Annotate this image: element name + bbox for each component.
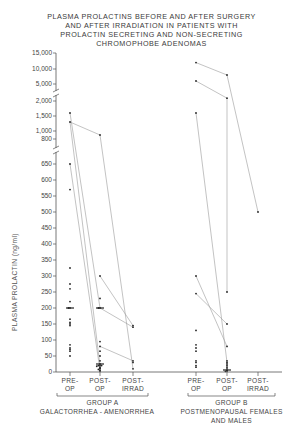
y-tick-label: 50 [45,352,53,359]
connecting-line [196,81,227,98]
connecting-line [70,164,100,370]
data-point [99,134,101,136]
data-point [195,293,197,295]
x-category-label: OP [65,385,75,392]
y-tick-label: 500 [41,208,52,215]
connecting-line [100,135,133,369]
connecting-line [100,346,133,360]
y-tick-label: 10,000 [32,65,52,72]
data-point [132,362,134,364]
y-axis-label: PLASMA PROLACTIN (ng/ml) [11,233,19,331]
group-subtitle: POSTMENOPAUSAL FEMALES [180,408,283,415]
data-point [195,347,197,349]
group-label: GROUP B [215,399,248,406]
data-point [98,369,100,371]
data-point [226,363,228,365]
plot-area: 15,00010,0005,0002,0001,5001,00080065060… [0,0,303,435]
data-point [69,355,71,357]
data-point [132,326,134,328]
y-tick-label: 1,500 [36,112,53,119]
y-tick-label: 650 [41,160,52,167]
connecting-line [196,63,227,75]
connecting-line [70,113,100,308]
group-bracket [188,393,275,396]
y-tick-label: 350 [41,256,52,263]
data-point [195,80,197,82]
y-tick-label: 250 [41,288,52,295]
data-point [69,267,71,269]
y-tick-label: 300 [41,272,52,279]
data-point [101,365,103,367]
data-point [132,325,134,327]
data-point [226,362,228,364]
data-point [69,189,71,191]
data-point [226,323,228,325]
x-category-label: POST- [216,377,237,384]
x-category-label: OP [222,385,232,392]
data-point [99,355,101,357]
data-point [195,275,197,277]
connecting-line [70,122,100,135]
y-tick-label: 100 [41,336,52,343]
y-tick-label: 5,000 [36,80,53,87]
x-category-label: PRE- [188,377,205,384]
data-point [69,322,71,324]
x-category-label: IRRAD [122,385,144,392]
data-point [69,349,71,351]
data-point [69,344,71,346]
data-point [132,368,134,370]
x-category-label: PRE- [62,377,79,384]
data-point [226,365,228,367]
data-point [69,121,71,123]
x-axis: PRE-OPPOST-OPPOST-IRRADPRE-OPPOST-OPPOST… [40,372,283,424]
y-tick-label: 150 [41,320,52,327]
data-point [69,288,71,290]
y-tick-label: 2,000 [36,97,53,104]
data-point [195,112,197,114]
data-point [195,330,197,332]
connecting-line [196,276,227,346]
y-tick-label: 600 [41,176,52,183]
data-point [257,211,259,213]
data-point [99,368,101,370]
connecting-line [196,294,227,324]
x-category-label: OP [191,385,201,392]
data-point [226,74,228,76]
y-tick-label: 1,000 [36,127,53,134]
x-category-label: POST- [247,377,268,384]
data-point [226,366,228,368]
data-point [195,344,197,346]
data-point [99,365,101,367]
connecting-lines [70,63,258,371]
data-point [69,350,71,352]
data-point [69,301,71,303]
x-category-label: IRRAD [247,385,269,392]
data-point [99,275,101,277]
data-point [99,298,101,300]
data-point [195,350,197,352]
data-point [226,360,228,362]
data-point [69,163,71,165]
data-point [99,341,101,343]
data-point [195,366,197,368]
data-point [69,112,71,114]
data-point [226,346,228,348]
x-category-label: POST- [122,377,143,384]
connecting-line [70,122,100,366]
data-point [195,362,197,364]
group-subtitle: GALACTORRHEA - AMENORRHEA [40,408,155,415]
y-tick-label: 200 [41,304,52,311]
y-tick-label: 0 [48,368,52,375]
connecting-line [100,308,133,327]
y-tick-label: 15,000 [32,49,52,56]
data-point [69,325,71,327]
data-point [98,365,100,367]
data-point [69,318,71,320]
data-point [195,360,197,362]
y-tick-label: 400 [41,240,52,247]
data-point [226,291,228,293]
connecting-line [227,75,258,212]
x-category-label: OP [95,385,105,392]
data-point [69,347,71,349]
connecting-line [196,113,227,362]
